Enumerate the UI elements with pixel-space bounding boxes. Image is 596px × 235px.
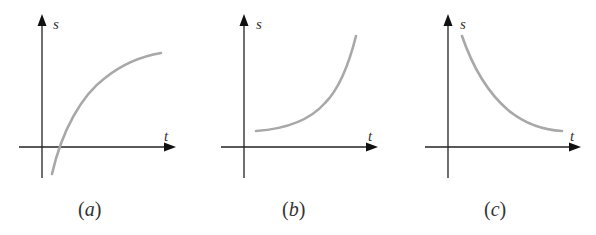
t-label: t [368,128,373,144]
position-time-graphs-figure: s t (a) s t (b) s t (c) [0,0,596,235]
caption-a: (a) [78,198,101,221]
caption-c: (c) [484,198,506,221]
caption-b: (b) [282,198,305,221]
s-label: s [460,16,466,32]
curve-b [256,36,356,131]
curve-c [462,36,562,131]
panel-a: s t (a) [19,14,176,221]
s-label: s [256,16,262,32]
s-axis-arrow-icon [38,14,47,26]
panel-c: s t (c) [425,14,581,221]
t-label: t [164,128,169,144]
curve-a [52,53,161,174]
t-label: t [570,128,575,144]
s-axis-arrow-icon [240,14,249,26]
s-axis-arrow-icon [444,14,453,26]
s-label: s [53,16,59,32]
panel-b: s t (b) [221,14,378,221]
